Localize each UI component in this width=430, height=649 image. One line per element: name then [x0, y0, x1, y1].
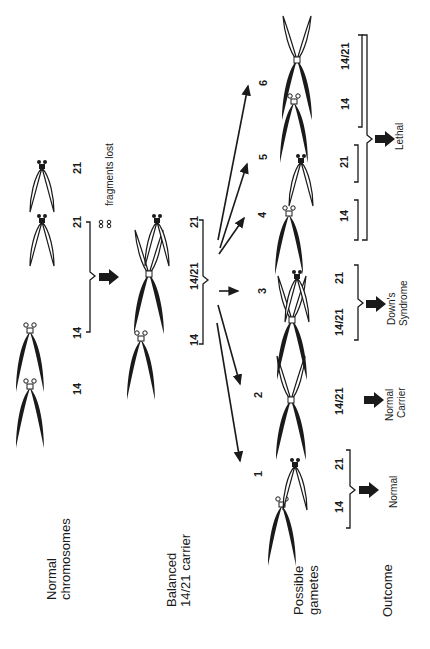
- chromosome-14: [127, 331, 155, 400]
- row-label-balanced: Balanced 14/21 carrier: [164, 533, 193, 607]
- svg-text:14/21 carrier: 14/21 carrier: [178, 533, 193, 607]
- svg-text:fragments lost: fragments lost: [104, 143, 115, 206]
- carrier-chromosomes: 14 14/21 21: [127, 214, 208, 400]
- svg-text:14/21: 14/21: [333, 308, 345, 336]
- svg-text:Carrier: Carrier: [396, 387, 407, 418]
- svg-text:Syndrome: Syndrome: [398, 280, 409, 326]
- arrow-icon: [375, 131, 395, 147]
- row-label-normal: Normal chromosomes: [44, 518, 73, 600]
- svg-text:Possible: Possible: [291, 566, 306, 615]
- arrow-icon: [359, 482, 379, 498]
- step-number: 4: [256, 211, 268, 218]
- chromosome-21: [283, 458, 307, 510]
- chromosome-14: [275, 206, 303, 275]
- svg-text:chromosomes: chromosomes: [58, 518, 73, 600]
- chromosome-14: [268, 497, 296, 566]
- arrow-icon: [99, 269, 119, 285]
- svg-text:Normal: Normal: [44, 558, 59, 600]
- svg-text:14/21: 14/21: [339, 42, 351, 70]
- segregation-arrows: [217, 86, 248, 461]
- step-number: 3: [256, 288, 268, 294]
- bracket: [86, 222, 95, 332]
- svg-text:Down's: Down's: [386, 293, 397, 325]
- row-label-outcome: Outcome: [380, 564, 395, 617]
- chromosome-14: [16, 379, 44, 448]
- step-number: 1: [252, 471, 264, 477]
- row-label-gametes: Possible gametes: [291, 565, 321, 615]
- svg-text:Normal: Normal: [388, 476, 399, 508]
- svg-text:21: 21: [333, 458, 345, 470]
- svg-text:21: 21: [188, 216, 200, 228]
- svg-text:Lethal: Lethal: [394, 123, 405, 150]
- svg-text:14: 14: [71, 382, 83, 395]
- chromosome-21: [30, 160, 54, 212]
- svg-text:14: 14: [71, 326, 83, 339]
- svg-text:21: 21: [333, 272, 345, 284]
- svg-text:21: 21: [71, 216, 83, 228]
- chromosome-21: [289, 154, 313, 206]
- step-number: 5: [257, 154, 269, 160]
- chromosome-21: [30, 214, 54, 266]
- gamete-5: 21: [289, 145, 358, 206]
- svg-text:14: 14: [338, 209, 350, 222]
- svg-text:14: 14: [339, 97, 351, 110]
- svg-text:Normal: Normal: [384, 389, 395, 421]
- chromosome-14: [16, 323, 44, 392]
- gamete-2: 14/21 Normal Carrier: [276, 356, 407, 460]
- arrow-icon: [364, 392, 384, 408]
- svg-text:14/21: 14/21: [188, 262, 200, 290]
- normal-chromosomes: 14 14 21 21 fragments lost: [16, 143, 119, 448]
- svg-text:21: 21: [338, 156, 350, 168]
- svg-text:14: 14: [333, 500, 345, 513]
- bracket: [199, 220, 208, 344]
- svg-text:14/21: 14/21: [333, 387, 345, 415]
- gamete-3: 14/21 21 Down's Syndrome: [277, 265, 409, 380]
- step-number: 6: [257, 80, 269, 86]
- lethal-group: Lethal: [362, 35, 405, 240]
- gamete-4: 14: [275, 200, 358, 275]
- fragments-icon: [99, 220, 111, 228]
- gamete-1: 14 21 Normal: [268, 450, 399, 566]
- svg-text:Balanced: Balanced: [164, 553, 179, 607]
- arrow-icon: [366, 296, 386, 312]
- translocation-diagram: Normal chromosomes Balanced 14/21 carrie…: [0, 0, 430, 649]
- svg-text:21: 21: [71, 162, 83, 174]
- svg-text:gametes: gametes: [306, 565, 321, 615]
- step-number: 2: [252, 392, 264, 398]
- svg-text:14: 14: [188, 333, 200, 346]
- chromosome-14-21: [276, 356, 306, 460]
- gamete-6: 14 14/21: [280, 16, 362, 163]
